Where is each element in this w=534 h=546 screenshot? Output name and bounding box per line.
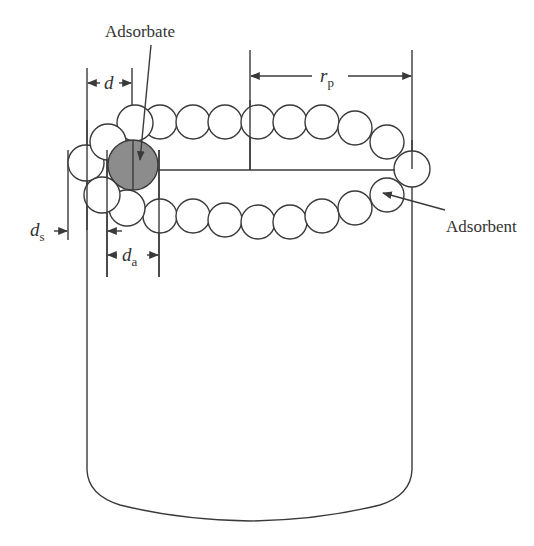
adsorbent-sphere: [305, 199, 339, 233]
adsorbent-sphere: [241, 205, 275, 239]
adsorbent-sphere: [338, 191, 372, 225]
adsorbent-sphere: [208, 105, 242, 139]
da-subscript: a: [132, 254, 138, 269]
d-label: d: [104, 72, 114, 93]
adsorbent-sphere: [176, 199, 210, 233]
adsorbent-sphere: [273, 205, 307, 239]
pore-adsorption-diagram: Adsorbate Adsorbent d rp ds da: [0, 0, 534, 546]
ds-symbol: d: [30, 219, 40, 240]
adsorbent-sphere: [305, 105, 339, 139]
adsorbent-top-chain: [143, 105, 404, 159]
ds-label: ds: [30, 219, 45, 244]
rp-subscript: p: [327, 75, 334, 90]
adsorbent-sphere: [143, 199, 177, 233]
adsorbent-sphere: [370, 125, 404, 159]
da-label: da: [122, 244, 138, 269]
rp-label: rp: [320, 65, 334, 90]
adsorbent-sphere: [338, 111, 372, 145]
adsorbate-label: Adsorbate: [105, 22, 175, 41]
adsorbent-sphere: [273, 105, 307, 139]
ds-subscript: s: [40, 229, 45, 244]
adsorbent-sphere: [208, 203, 242, 237]
adsorbent-sphere: [241, 105, 275, 139]
adsorbent-sphere: [370, 178, 404, 212]
da-symbol: d: [122, 244, 132, 265]
adsorbent-bottom-chain: [143, 178, 404, 239]
adsorbent-label: Adsorbent: [446, 217, 517, 236]
pore-wall: [87, 282, 412, 521]
adsorbent-sphere: [176, 105, 210, 139]
